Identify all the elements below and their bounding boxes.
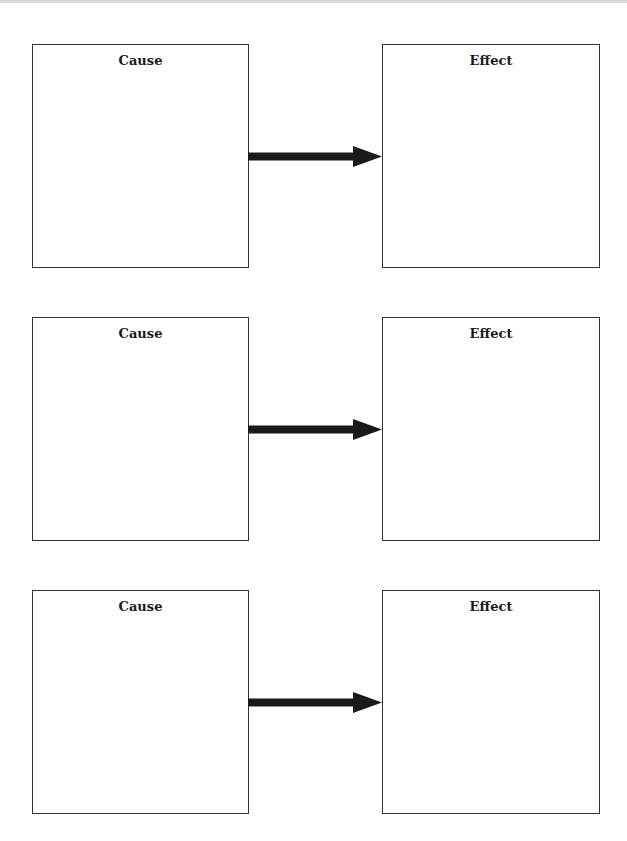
arrow-right-icon bbox=[248, 144, 383, 170]
effect-box-1[interactable]: Effect bbox=[382, 44, 600, 268]
arrow-right-icon bbox=[248, 690, 383, 716]
arrow-right-icon bbox=[248, 417, 383, 443]
effect-box-2[interactable]: Effect bbox=[382, 317, 600, 541]
cause-box-1[interactable]: Cause bbox=[32, 44, 249, 268]
effect-label-2: Effect bbox=[383, 326, 599, 341]
cause-label-3: Cause bbox=[33, 599, 248, 614]
cause-label-2: Cause bbox=[33, 326, 248, 341]
effect-label-3: Effect bbox=[383, 599, 599, 614]
cause-label-1: Cause bbox=[33, 53, 248, 68]
cause-box-2[interactable]: Cause bbox=[32, 317, 249, 541]
effect-label-1: Effect bbox=[383, 53, 599, 68]
cause-box-3[interactable]: Cause bbox=[32, 590, 249, 814]
effect-box-3[interactable]: Effect bbox=[382, 590, 600, 814]
top-edge-strip bbox=[0, 0, 627, 3]
